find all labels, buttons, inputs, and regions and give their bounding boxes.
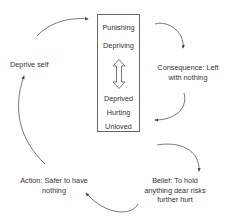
center-box: Punishing Depriving Deprived Hurting Unl… <box>97 14 140 132</box>
arrow-belief-to-action <box>86 193 138 212</box>
arrow-box-to-belief <box>157 144 199 171</box>
box-word-unloved: Unloved <box>98 122 139 131</box>
node-belief: Belief: To hold anything dear risks furt… <box>133 176 217 205</box>
node-consequence: Consequence: Left with nothing <box>150 63 226 82</box>
node-action: Action: Safer to have nothing <box>14 176 94 195</box>
node-belief-line1: Belief: To hold <box>133 176 217 186</box>
arrow-box-to-consequence <box>155 23 183 48</box>
node-deprive-self-text: Deprive self <box>10 60 49 69</box>
arrow-deprive-to-box <box>37 19 88 36</box>
box-word-deprived: Deprived <box>98 94 139 103</box>
box-word-hurting: Hurting <box>98 108 139 117</box>
arrow-consequence-to-box <box>155 93 185 120</box>
node-consequence-line2: with nothing <box>150 73 226 83</box>
box-word-punishing: Punishing <box>98 23 139 32</box>
box-word-depriving: Depriving <box>98 41 139 50</box>
node-consequence-line1: Consequence: Left <box>150 63 226 73</box>
node-belief-line2: anything dear risks <box>133 186 217 196</box>
node-action-line2: nothing <box>14 186 94 196</box>
node-belief-line3: further hurt <box>133 195 217 205</box>
double-arrow-icon <box>112 59 126 89</box>
arrow-action-to-deprive <box>19 76 45 164</box>
node-action-line1: Action: Safer to have <box>14 176 94 186</box>
node-deprive-self: Deprive self <box>10 60 60 70</box>
